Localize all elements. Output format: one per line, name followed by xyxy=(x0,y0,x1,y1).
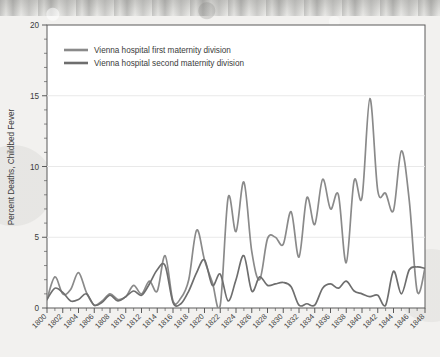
x-tick-label: 1824 xyxy=(219,312,237,330)
x-tick-label: 1802 xyxy=(46,312,64,330)
x-tick-label: 1836 xyxy=(314,312,332,330)
y-axis-label: Percent Deaths, Childbed Fever xyxy=(7,108,16,225)
x-tick-label: 1842 xyxy=(361,312,379,330)
x-tick-label: 1840 xyxy=(345,312,363,330)
x-tick-label: 1846 xyxy=(392,312,410,330)
x-tick-label: 1804 xyxy=(62,312,80,330)
y-tick-label: 20 xyxy=(30,21,40,30)
x-tick-label: 1806 xyxy=(77,312,95,330)
legend-label: Vienna hospital second maternity divisio… xyxy=(94,59,244,68)
x-tick-label: 1848 xyxy=(408,312,426,330)
x-tick-label: 1816 xyxy=(156,312,174,330)
x-tick-label: 1834 xyxy=(298,312,316,330)
y-tick-label: 0 xyxy=(34,304,39,313)
y-tick-label: 10 xyxy=(30,163,40,172)
x-tick-label: 1800 xyxy=(30,312,48,330)
x-tick-label: 1838 xyxy=(329,312,347,330)
chart-figure: 05101520 1800180218041806180818101812181… xyxy=(0,0,440,357)
x-tick-label: 1826 xyxy=(235,312,253,330)
line-chart-svg: 05101520 1800180218041806180818101812181… xyxy=(0,0,440,357)
x-tick-label: 1822 xyxy=(203,312,221,330)
x-tick-label: 1830 xyxy=(266,312,284,330)
x-tick-label: 1808 xyxy=(93,312,111,330)
y-axis-ticks: 05101520 xyxy=(30,21,47,313)
x-axis-tick-labels: 1800180218041806180818101812181418161818… xyxy=(30,312,426,330)
x-tick-label: 1812 xyxy=(125,312,143,330)
x-tick-label: 1814 xyxy=(140,312,158,330)
y-tick-label: 5 xyxy=(34,233,39,242)
x-tick-label: 1818 xyxy=(172,312,190,330)
x-tick-label: 1832 xyxy=(282,312,300,330)
x-tick-label: 1844 xyxy=(377,312,395,330)
y-tick-label: 15 xyxy=(30,92,40,101)
legend-label: Vienna hospital first maternity division xyxy=(94,46,231,55)
x-tick-label: 1828 xyxy=(251,312,269,330)
x-tick-label: 1810 xyxy=(109,312,127,330)
x-tick-label: 1820 xyxy=(188,312,206,330)
